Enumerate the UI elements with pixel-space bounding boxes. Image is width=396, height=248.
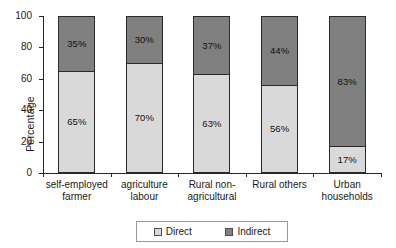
y-tick-label-40: 40 [21,105,32,115]
legend-swatch-icon-indirect [225,228,233,236]
category-label-1: agriculturelabour [111,179,179,202]
x-tick-3 [246,173,247,177]
bar-value-label-direct-2: 63% [202,119,221,129]
chart-legend: DirectIndirect [136,221,288,242]
category-label-3: Rural others [246,179,314,202]
bar-group-4[interactable]: 83%17% [329,16,366,173]
bar-value-label-indirect-2: 37% [202,41,221,51]
x-tick-0 [43,173,44,177]
bar-group-0[interactable]: 35%65% [58,16,95,173]
x-axis-line [43,173,381,174]
bar-value-label-indirect-1: 30% [135,35,154,45]
legend-swatch-icon-direct [154,228,162,236]
bar-group-2[interactable]: 37%63% [193,16,230,173]
bar-segment-direct-2[interactable]: 63% [193,74,230,173]
category-label-line: Rural others [246,179,314,191]
legend-item-direct[interactable]: Direct [154,227,192,237]
category-label-4: Urbanhouseholds [313,179,381,202]
y-tick-label-80: 80 [21,42,32,52]
category-label-line: agricultural [178,191,246,203]
bar-segment-direct-1[interactable]: 70% [126,63,163,173]
category-label-line: Rural non- [178,179,246,191]
category-label-line: Urban [313,179,381,191]
bar-value-label-indirect-3: 44% [270,46,289,56]
plot-area: 020406080100 35%65%30%70%37%63%44%56%83%… [43,16,381,173]
bar-segment-indirect-0[interactable]: 35% [58,16,95,71]
y-tick-label-0: 0 [26,168,32,178]
x-axis-category-labels: self-employedfarmeragriculturelabourRura… [43,179,381,202]
x-tick-4 [313,173,314,177]
bar-series-container: 35%65%30%70%37%63%44%56%83%17% [43,16,381,173]
x-tick-5 [381,173,382,177]
legend-label-indirect: Indirect [237,227,270,237]
legend-item-indirect[interactable]: Indirect [225,227,270,237]
category-label-line: farmer [43,191,111,203]
bar-segment-indirect-1[interactable]: 30% [126,16,163,63]
bar-value-label-indirect-0: 35% [67,39,86,49]
category-label-line: households [313,191,381,203]
category-label-2: Rural non-agricultural [178,179,246,202]
bar-value-label-direct-1: 70% [135,113,154,123]
bar-value-label-indirect-4: 83% [338,77,357,87]
category-label-line: self-employed [43,179,111,191]
bar-group-3[interactable]: 44%56% [261,16,298,173]
category-label-line: labour [111,191,179,203]
bar-segment-indirect-2[interactable]: 37% [193,16,230,74]
bar-segment-indirect-3[interactable]: 44% [261,16,298,85]
bar-segment-indirect-4[interactable]: 83% [329,16,366,146]
bar-group-1[interactable]: 30%70% [126,16,163,173]
category-label-0: self-employedfarmer [43,179,111,202]
stacked-bar-chart: Percentage 020406080100 35%65%30%70%37%6… [0,0,396,248]
bar-value-label-direct-4: 17% [338,155,357,165]
y-tick-label-20: 20 [21,137,32,147]
bar-segment-direct-3[interactable]: 56% [261,85,298,173]
y-tick-label-100: 100 [15,11,32,21]
legend-label-direct: Direct [166,227,192,237]
x-tick-2 [178,173,179,177]
bar-value-label-direct-3: 56% [270,124,289,134]
bar-value-label-direct-0: 65% [67,117,86,127]
x-tick-1 [111,173,112,177]
y-tick-label-60: 60 [21,74,32,84]
category-label-line: agriculture [111,179,179,191]
bar-segment-direct-4[interactable]: 17% [329,146,366,173]
bar-segment-direct-0[interactable]: 65% [58,71,95,173]
